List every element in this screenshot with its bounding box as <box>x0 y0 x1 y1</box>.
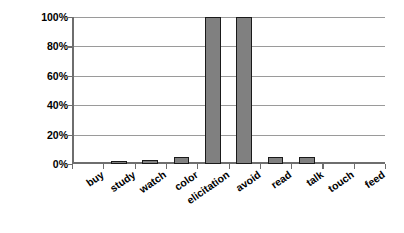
bar-elicitation[interactable] <box>205 17 221 164</box>
y-axis-tick-label: 60% <box>28 71 68 82</box>
bar-slot <box>228 17 259 164</box>
y-axis-tick-label: 100% <box>28 12 68 23</box>
bar-slot <box>72 17 103 164</box>
bar-slot <box>135 17 166 164</box>
bar-slot <box>260 17 291 164</box>
bar-talk[interactable] <box>299 157 315 164</box>
bar-slot <box>197 17 228 164</box>
bar-slot <box>166 17 197 164</box>
x-axis-tick-mark <box>385 164 386 169</box>
bar-read[interactable] <box>268 157 284 164</box>
bar-avoid[interactable] <box>236 17 252 164</box>
x-axis-label-avoid: avoid <box>234 169 262 193</box>
y-axis-tick-label: 0% <box>28 159 68 170</box>
y-axis-tick-label: 80% <box>28 41 68 52</box>
y-axis-tick-labels: 0%20%40%60%80%100% <box>28 10 68 164</box>
bar-slot <box>291 17 322 164</box>
y-axis-tick-label: 40% <box>28 100 68 111</box>
bar-slot <box>103 17 134 164</box>
plot-area <box>72 17 385 164</box>
x-axis-label-talk: talk <box>304 169 325 188</box>
x-axis-label-feed: feed <box>363 169 387 190</box>
bar-slot <box>322 17 353 164</box>
y-axis-tick-label: 20% <box>28 129 68 140</box>
x-axis-label-touch: touch <box>326 169 355 194</box>
bar-slot <box>354 17 385 164</box>
bars-container <box>72 17 385 164</box>
x-axis-label-buy: buy <box>84 169 105 188</box>
bar-chart-figure: Probability of Response 0%20%40%60%80%10… <box>0 0 404 233</box>
bar-color[interactable] <box>174 157 190 164</box>
x-axis-label-watch: watch <box>138 169 168 195</box>
x-axis-label-read: read <box>269 169 293 190</box>
x-axis-category-labels: buystudywatchcolorelicitationavoidreadta… <box>72 169 385 229</box>
x-axis-label-study: study <box>108 169 137 194</box>
